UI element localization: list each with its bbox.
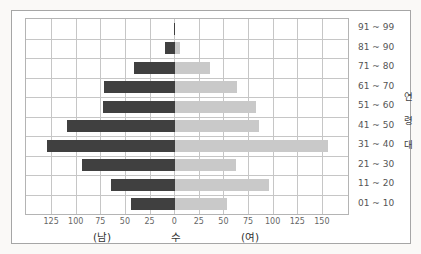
screenshot-root: { "chart_data": { "type": "bar", "varian… [0, 0, 421, 254]
horizontal-gridline [26, 175, 348, 176]
male-bar [174, 23, 175, 35]
horizontal-gridline [26, 156, 348, 157]
male-bar [104, 81, 175, 93]
y-axis-title-char: 령 [401, 115, 415, 127]
vertical-gridline [51, 19, 52, 214]
horizontal-gridline [26, 195, 348, 196]
vertical-gridline [100, 19, 101, 214]
female-bar [175, 159, 236, 171]
male-bar [47, 140, 175, 152]
female-bar [175, 62, 209, 74]
y-axis-title: 연 령 대 [401, 79, 415, 163]
horizontal-gridline [26, 136, 348, 137]
female-bar [175, 198, 227, 210]
vertical-gridline [273, 19, 274, 214]
female-axis-label: (여) [230, 229, 270, 244]
female-bar [175, 140, 328, 152]
y-axis-title-char: 대 [401, 139, 415, 151]
age-group-label: 11 ~ 20 [358, 178, 394, 189]
age-group-label: 51 ~ 60 [358, 100, 394, 111]
male-bar [67, 120, 175, 132]
male-axis-label: (남) [82, 229, 122, 244]
count-axis-label: 수 [164, 229, 188, 244]
female-bar [175, 179, 269, 191]
age-group-label: 91 ~ 99 [358, 22, 394, 33]
age-group-label: 21 ~ 30 [358, 159, 394, 170]
female-bar [175, 81, 237, 93]
pyramid-plot-area [25, 18, 349, 215]
age-group-label: 61 ~ 70 [358, 81, 394, 92]
y-axis-title-char: 연 [401, 91, 415, 103]
x-tick-label: 150 [307, 217, 337, 226]
chart-frame: 1251007550250255075100125150 91 ~ 9981 ~… [11, 10, 411, 244]
male-bar [111, 179, 175, 191]
male-bar [134, 62, 175, 74]
horizontal-gridline [26, 97, 348, 98]
age-group-label: 81 ~ 90 [358, 42, 394, 53]
age-group-label: 01 ~ 10 [358, 198, 394, 209]
male-bar [82, 159, 176, 171]
age-group-label: 41 ~ 50 [358, 120, 394, 131]
horizontal-gridline [26, 58, 348, 59]
horizontal-gridline [26, 39, 348, 40]
male-bar [131, 198, 175, 210]
female-bar [175, 42, 180, 54]
horizontal-gridline [26, 117, 348, 118]
age-group-label: 71 ~ 80 [358, 61, 394, 72]
vertical-gridline [297, 19, 298, 214]
horizontal-gridline [26, 78, 348, 79]
age-group-label: 31 ~ 40 [358, 139, 394, 150]
vertical-gridline [322, 19, 323, 214]
male-bar [165, 42, 175, 54]
female-bar [175, 101, 256, 113]
vertical-gridline [76, 19, 77, 214]
female-bar [175, 120, 259, 132]
male-bar [103, 101, 175, 113]
